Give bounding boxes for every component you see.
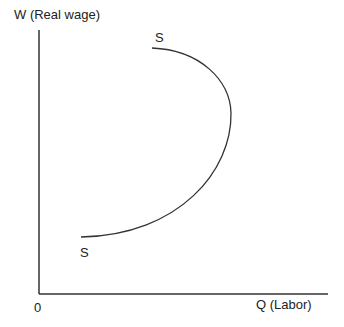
diagram-canvas [0,0,344,327]
y-axis-label: W (Real wage) [14,7,100,22]
curve-label-bottom: S [80,245,89,260]
supply-curve [81,48,231,237]
x-axis-label: Q (Labor) [256,297,312,312]
curve-label-top: S [155,30,164,45]
origin-label: 0 [34,300,41,315]
